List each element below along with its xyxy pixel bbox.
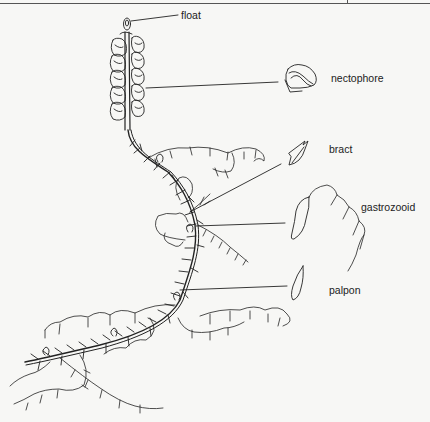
gastrozooid-icon	[291, 197, 309, 239]
gastrozooid-leader-line	[196, 223, 285, 226]
gastrozooid-tentacle	[309, 185, 365, 271]
tentacles	[10, 147, 290, 413]
gastrozooid-label: gastrozooid	[361, 201, 415, 213]
nectophore-detail-icon	[285, 65, 316, 93]
bract-label: bract	[329, 143, 352, 155]
float-icon	[124, 18, 131, 30]
float-leader-line	[131, 15, 178, 21]
float-label: float	[181, 9, 201, 21]
nectophore-label: nectophore	[331, 72, 384, 84]
stem	[25, 130, 204, 370]
palpon-label: palpon	[329, 284, 361, 296]
palpon-icon	[292, 266, 304, 300]
nectophore-stack	[110, 32, 144, 130]
bract-leader-line	[190, 164, 281, 212]
nectophore-leader-line	[146, 82, 278, 88]
bract-icon	[289, 141, 308, 165]
palpon-leader-line	[180, 286, 287, 290]
